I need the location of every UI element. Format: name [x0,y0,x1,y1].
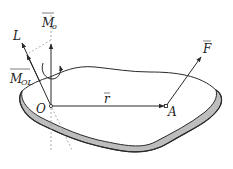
moment-diagram: M o L M OL O r A F [0,0,233,169]
force-vector-F [166,57,201,106]
label-L: L [12,29,21,43]
plate-edge [20,90,222,152]
plate-bottom-edge [20,90,222,152]
label-F: F [202,42,212,56]
projection-dashed [29,40,51,53]
label-M-OL-sub: OL [21,78,33,87]
point-O [49,104,52,107]
label-O: O [36,102,46,116]
label-M-o-sub: o [52,22,57,31]
label-A: A [167,105,177,119]
label-r: r [104,92,111,106]
